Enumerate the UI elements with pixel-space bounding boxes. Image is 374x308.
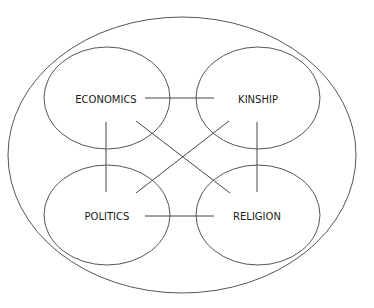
connector-lines: [106, 98, 257, 216]
economics-label: ECONOMICS: [75, 94, 136, 105]
outer-society-ellipse: [8, 17, 356, 293]
kinship-label: KINSHIP: [238, 94, 278, 105]
institutions-diagram: ECONOMICSKINSHIPPOLITICSRELIGION: [0, 0, 374, 308]
religion-label: RELIGION: [233, 211, 281, 222]
node-religion: RELIGION: [196, 165, 320, 265]
politics-label: POLITICS: [85, 211, 130, 222]
node-politics: POLITICS: [44, 165, 170, 265]
node-kinship: KINSHIP: [196, 47, 320, 149]
